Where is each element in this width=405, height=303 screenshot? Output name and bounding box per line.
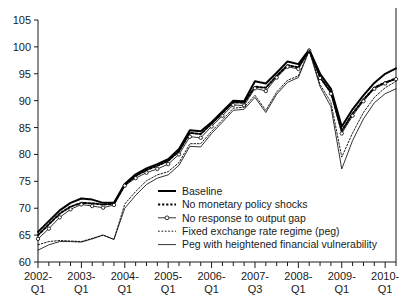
- legend-label-0: Baseline: [182, 185, 222, 197]
- series-marker: [101, 206, 104, 209]
- y-tick-label: 95: [19, 68, 31, 80]
- series-marker: [340, 132, 343, 135]
- series-marker: [297, 67, 300, 70]
- chart-legend: BaselineNo monetary policy shocksNo resp…: [158, 185, 378, 251]
- series-marker: [232, 103, 235, 106]
- x-tick-label-year: 2008-: [284, 270, 312, 282]
- series-marker: [58, 216, 61, 219]
- series-marker: [373, 87, 376, 90]
- series-marker: [80, 203, 83, 206]
- series-marker: [145, 171, 148, 174]
- x-tick-label-quarter: Q1: [74, 283, 89, 295]
- series-marker: [199, 136, 202, 139]
- x-tick-label-quarter: Q1: [204, 283, 219, 295]
- y-tick-label: 60: [19, 256, 31, 268]
- series-marker: [383, 82, 386, 85]
- series-marker: [264, 89, 267, 92]
- legend-label-3: Fixed exchange rate regime (peg): [182, 225, 340, 237]
- series-marker: [123, 184, 126, 187]
- series-marker: [253, 87, 256, 90]
- x-axis: 2002-Q12003-Q12004-Q12005-Q12006-Q12007-…: [24, 262, 400, 295]
- x-tick-label-quarter: Q1: [334, 283, 349, 295]
- legend-swatch-marker-2: [165, 216, 169, 220]
- x-tick-label-year: 2004-: [111, 270, 139, 282]
- x-tick-label-year: 2009-: [328, 270, 356, 282]
- x-tick-label-year: 2006-: [198, 270, 226, 282]
- y-tick-label: 80: [19, 148, 31, 160]
- chart-figure: 6065707580859095100105 2002-Q12003-Q1200…: [0, 0, 405, 303]
- series-marker: [36, 237, 39, 240]
- y-tick-label: 70: [19, 202, 31, 214]
- series-marker: [351, 114, 354, 117]
- line-chart: 6065707580859095100105 2002-Q12003-Q1200…: [0, 0, 405, 303]
- y-tick-label: 90: [19, 95, 31, 107]
- series-marker: [221, 114, 224, 117]
- series-marker: [275, 76, 278, 79]
- x-tick-label-quarter: Q1: [291, 283, 306, 295]
- x-tick-label-year: 2003-: [67, 270, 95, 282]
- y-axis: 6065707580859095100105: [13, 14, 38, 268]
- series-marker: [394, 77, 397, 80]
- legend-label-1: No monetary policy shocks: [182, 198, 307, 210]
- x-tick-label-year: 2002-: [24, 270, 52, 282]
- y-tick-label: 105: [13, 14, 31, 26]
- x-tick-label-quarter: Q3: [248, 283, 263, 295]
- series-marker: [91, 204, 94, 207]
- x-tick-label-year: 2010-: [371, 270, 399, 282]
- series-marker: [112, 203, 115, 206]
- series-marker: [134, 176, 137, 179]
- series-marker: [47, 227, 50, 230]
- series-marker: [286, 65, 289, 68]
- series-marker: [329, 92, 332, 95]
- y-tick-label: 85: [19, 122, 31, 134]
- x-tick-label-quarter: Q1: [31, 283, 46, 295]
- x-tick-label-quarter: Q1: [378, 283, 393, 295]
- series-marker: [188, 135, 191, 138]
- x-tick-label-quarter: Q1: [117, 283, 132, 295]
- series-marker: [69, 208, 72, 211]
- legend-label-2: No response to output gap: [182, 212, 306, 224]
- series-marker: [177, 153, 180, 156]
- series-marker: [156, 167, 159, 170]
- x-tick-label-year: 2005-: [154, 270, 182, 282]
- series-marker: [210, 125, 213, 128]
- y-tick-label: 65: [19, 229, 31, 241]
- x-tick-label-quarter: Q1: [161, 283, 176, 295]
- x-tick-label-year: 2007-: [241, 270, 269, 282]
- y-tick-label: 75: [19, 175, 31, 187]
- legend-label-4: Peg with heightened financial vulnerabil…: [182, 238, 378, 250]
- series-marker: [166, 162, 169, 165]
- y-tick-label: 100: [13, 41, 31, 53]
- series-marker: [362, 100, 365, 103]
